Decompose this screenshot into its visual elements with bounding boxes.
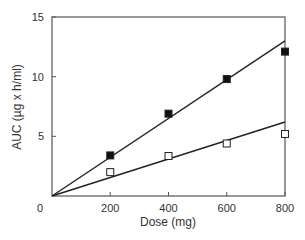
filled-square-marker (165, 110, 172, 117)
filled-square-marker (107, 152, 114, 159)
chart: 200400600800051015 Dose (mg) AUC (µg x h… (0, 0, 305, 240)
open-square-marker (107, 169, 114, 176)
fit-lines (52, 41, 285, 196)
filled-square-marker (282, 48, 289, 55)
y-tick-label: 10 (32, 71, 44, 83)
open-square-marker (282, 130, 289, 137)
open-square-marker (165, 153, 172, 160)
fit-line (52, 41, 285, 196)
origin-label: 0 (37, 202, 43, 214)
plot-frame (52, 17, 285, 196)
y-axis-label: AUC (µg x h/ml) (10, 64, 24, 150)
y-tick-label: 5 (38, 130, 44, 142)
x-tick-label: 200 (101, 202, 119, 214)
x-tick-label: 800 (276, 202, 294, 214)
x-axis-label: Dose (mg) (140, 215, 196, 229)
x-tick-label: 400 (159, 202, 177, 214)
x-tick-label: 600 (218, 202, 236, 214)
filled-square-marker (223, 76, 230, 83)
open-square-marker (223, 140, 230, 147)
y-tick-label: 15 (32, 11, 44, 23)
data-points (107, 48, 289, 176)
